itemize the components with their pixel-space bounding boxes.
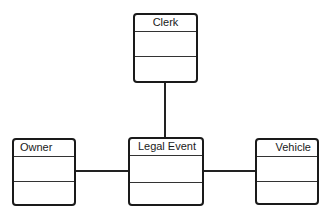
association-clerk-legal-event — [164, 82, 166, 138]
class-box-legal-event[interactable]: Legal Event — [128, 137, 204, 206]
class-name-clerk: Clerk — [135, 15, 196, 32]
class-operations-legal-event — [130, 183, 202, 204]
class-box-vehicle[interactable]: Vehicle — [255, 138, 319, 205]
class-box-owner[interactable]: Owner — [12, 138, 76, 206]
class-diagram-canvas: Clerk Owner Legal Event Vehicle — [0, 0, 333, 219]
class-operations-owner — [14, 182, 74, 204]
class-name-vehicle: Vehicle — [257, 140, 317, 157]
class-attributes-clerk — [135, 32, 196, 57]
association-owner-legal-event — [76, 170, 128, 172]
class-attributes-legal-event — [130, 156, 202, 183]
association-legal-event-vehicle — [204, 170, 255, 172]
class-name-legal-event: Legal Event — [130, 139, 202, 156]
class-attributes-vehicle — [257, 157, 317, 182]
class-attributes-owner — [14, 157, 74, 182]
class-operations-vehicle — [257, 182, 317, 203]
class-operations-clerk — [135, 57, 196, 81]
class-box-clerk[interactable]: Clerk — [133, 13, 198, 83]
class-name-owner: Owner — [14, 140, 74, 157]
